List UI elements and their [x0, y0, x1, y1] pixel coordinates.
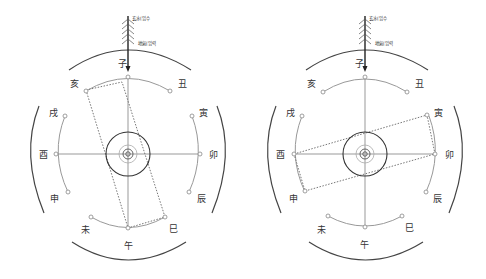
node-mao	[198, 152, 202, 156]
label-shen: 申	[50, 193, 59, 204]
node-hai	[84, 89, 88, 93]
node-you	[54, 152, 58, 156]
label-shen: 申	[289, 193, 298, 204]
label-si: 巳	[169, 224, 178, 234]
label-yin: 寅	[199, 107, 208, 118]
node-chen	[424, 190, 428, 194]
label-you: 酉	[276, 150, 285, 160]
node-yin	[425, 113, 429, 117]
label-wu: 午	[124, 240, 133, 251]
node-wei	[326, 214, 330, 218]
label-chou: 丑	[415, 79, 424, 89]
label-zi: 子	[355, 59, 364, 69]
node-chou	[168, 89, 172, 93]
node-xu	[300, 114, 304, 118]
label-you: 酉	[39, 150, 48, 160]
node-mao	[433, 152, 437, 156]
label-wu: 午	[360, 239, 369, 250]
label-chen: 辰	[433, 194, 442, 204]
node-yin	[190, 114, 194, 118]
label-wei: 未	[81, 224, 90, 235]
label-water: 玄水(입수	[369, 15, 387, 22]
label-xu: 戌	[49, 107, 58, 118]
label-hai: 亥	[70, 78, 79, 89]
node-zi	[363, 75, 367, 79]
node-zi	[126, 75, 130, 79]
label-si: 巳	[405, 223, 414, 233]
label-yin: 寅	[434, 107, 443, 118]
label-zi: 子	[118, 59, 127, 69]
node-xu	[63, 114, 67, 118]
node-chen	[187, 190, 191, 194]
label-xu: 戌	[286, 107, 295, 118]
label-mao: 卯	[209, 150, 218, 160]
left-panel: 玄水(입수 地氣(입력 子 亥 丑 戌 酉 申 寅 卯 辰 未 午 巳	[31, 15, 226, 261]
node-shen	[66, 190, 70, 194]
node-wu	[363, 225, 367, 229]
label-water: 玄水(입수	[132, 15, 150, 22]
label-wei: 未	[317, 224, 326, 235]
label-energy: 地氣(입력	[375, 40, 393, 47]
right-panel: 玄水(입수 地氣(입력 子 亥 丑 戌 酉 申 寅 卯 辰 未 午 巳	[268, 15, 463, 261]
diagram-canvas: 玄水(입수 地氣(입력 子 亥 丑 戌 酉 申 寅 卯 辰 未 午 巳	[0, 0, 486, 279]
node-si	[400, 214, 404, 218]
label-hai: 亥	[307, 78, 316, 89]
node-you	[292, 152, 296, 156]
label-energy: 地氣(입력	[138, 40, 156, 47]
label-chou: 丑	[178, 79, 187, 89]
node-shen	[303, 189, 307, 193]
label-mao: 卯	[445, 150, 454, 160]
node-chou	[405, 90, 409, 94]
label-chen: 辰	[197, 194, 206, 204]
dotted-rectangle	[86, 82, 165, 228]
node-si	[163, 215, 167, 219]
node-wu	[126, 226, 130, 230]
node-wei	[89, 215, 93, 219]
node-hai	[321, 90, 325, 94]
